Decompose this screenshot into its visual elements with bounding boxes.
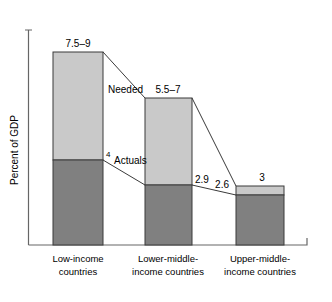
bar-actual-upper-middle-income bbox=[236, 195, 284, 245]
value-label-bar1-actual: 4 bbox=[106, 150, 111, 159]
x-tick-label-upper-middle-income-line1: Upper-middle- bbox=[230, 253, 290, 264]
x-tick-label-low-income-line1: Low-income bbox=[52, 253, 103, 264]
chart-container: 7.5–9 5.5–7 3 4 2.9 2.6 Needed Actuals P… bbox=[0, 0, 332, 302]
bar-actual-lower-middle-income bbox=[145, 185, 192, 245]
y-axis-title: Percent of GDP bbox=[9, 115, 20, 185]
x-tick-label-lower-middle-income-line2: income countries bbox=[132, 266, 204, 277]
bar-needed-lower-middle-income bbox=[145, 98, 192, 185]
series-annotation-needed: Needed bbox=[108, 84, 143, 95]
bar-actual-low-income bbox=[53, 160, 103, 245]
connector-needed-2-3 bbox=[192, 98, 236, 186]
value-label-bar1-total: 7.5–9 bbox=[65, 38, 90, 49]
value-label-bar3-actual: 2.6 bbox=[215, 179, 229, 190]
series-annotation-actuals: Actuals bbox=[114, 155, 147, 166]
x-tick-label-upper-middle-income-line2: income countries bbox=[224, 266, 296, 277]
connector-actuals-2-3 bbox=[192, 185, 236, 195]
value-label-bar3-total: 3 bbox=[259, 172, 265, 183]
value-label-bar2-actual: 2.9 bbox=[195, 174, 209, 185]
grouped-stacked-bar-chart: 7.5–9 5.5–7 3 4 2.9 2.6 Needed Actuals P… bbox=[0, 0, 332, 302]
bar-needed-upper-middle-income bbox=[236, 186, 284, 195]
x-tick-label-lower-middle-income-line1: Lower-middle- bbox=[138, 253, 198, 264]
y-axis bbox=[25, 30, 32, 245]
value-label-bar2-total: 5.5–7 bbox=[155, 84, 180, 95]
x-tick-label-low-income-line2: countries bbox=[59, 266, 98, 277]
bar-needed-low-income bbox=[53, 52, 103, 160]
